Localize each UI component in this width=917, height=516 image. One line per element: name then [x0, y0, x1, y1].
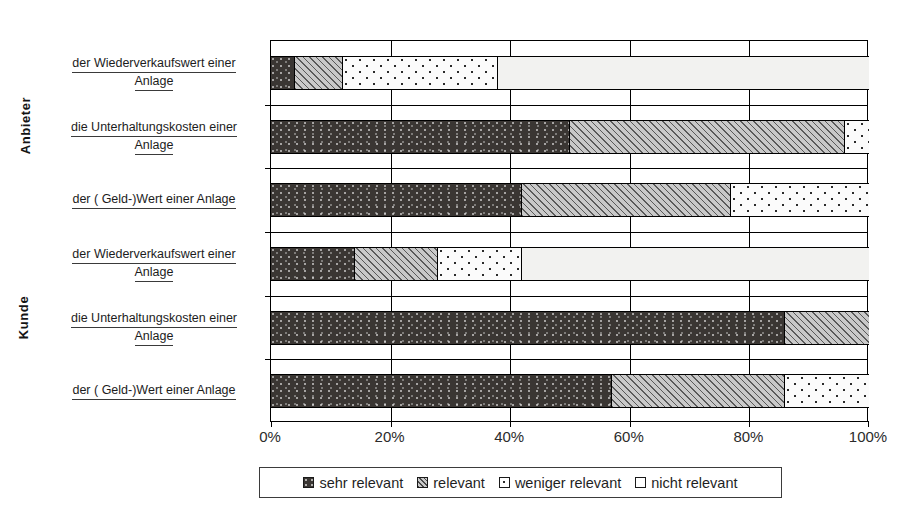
category-label-line: der ( Geld-)Wert einer Anlage — [72, 191, 235, 209]
category-separator-line — [271, 105, 867, 106]
category-label-line: der ( Geld-)Wert einer Anlage — [72, 382, 235, 400]
y-axis-tick — [265, 232, 271, 233]
bar-segment-nicht-relevant — [522, 248, 869, 280]
category-label: der Wiederverkaufswert einerAnlage — [40, 55, 268, 91]
bar-segment-sehr-relevant — [271, 312, 785, 344]
bar-segment-nicht-relevant — [498, 57, 869, 89]
category-label-line: der Wiederverkaufswert einer — [72, 246, 235, 264]
chart-legend: sehr relevantrelevantweniger relevantnic… — [259, 467, 782, 498]
x-axis-tick — [271, 421, 272, 427]
stacked-bar — [271, 183, 869, 217]
y-axis-tick — [265, 359, 271, 360]
category-separator-line — [271, 296, 867, 297]
category-label: der ( Geld-)Wert einer Anlage — [40, 382, 268, 400]
axis-group-label-anbieter: Anbieter — [18, 81, 33, 171]
x-axis-tick-label: 40% — [494, 428, 524, 445]
legend-label: relevant — [433, 475, 485, 491]
x-axis-tick-label: 60% — [614, 428, 644, 445]
x-axis-tick — [630, 421, 631, 427]
category-separator-line — [271, 232, 867, 233]
bar-segment-weniger-relevant — [438, 248, 522, 280]
bar-segment-relevant — [570, 121, 845, 153]
category-label-line: Anlage — [135, 264, 174, 282]
stacked-bar — [271, 311, 869, 345]
legend-label: weniger relevant — [515, 475, 621, 491]
bar-segment-sehr-relevant — [271, 248, 355, 280]
category-label-line: Anlage — [135, 137, 174, 155]
category-label-column: der Wiederverkaufswert einerAnlagedie Un… — [40, 40, 268, 422]
white-dotted-swatch — [499, 477, 510, 488]
category-label-line: Anlage — [135, 73, 174, 91]
bar-segment-relevant — [785, 312, 869, 344]
category-label: der ( Geld-)Wert einer Anlage — [40, 191, 268, 209]
x-axis-tick — [510, 421, 511, 427]
legend-item[interactable]: weniger relevant — [499, 475, 621, 491]
bar-segment-weniger-relevant — [343, 57, 498, 89]
stacked-bar — [271, 374, 869, 408]
x-axis-tick-label: 80% — [733, 428, 763, 445]
vertical-gridline — [391, 41, 392, 421]
legend-label: nicht relevant — [651, 475, 737, 491]
bar-segment-relevant — [522, 184, 731, 216]
category-separator-line — [271, 359, 867, 360]
bar-segment-sehr-relevant — [271, 121, 570, 153]
bar-segment-sehr-relevant — [271, 184, 522, 216]
category-label-line: der Wiederverkaufswert einer — [72, 55, 235, 73]
y-axis-tick — [265, 168, 271, 169]
axis-group-label-kunde: Kunde — [16, 273, 31, 363]
legend-item[interactable]: sehr relevant — [303, 475, 403, 491]
y-axis-tick — [265, 296, 271, 297]
bar-segment-weniger-relevant — [731, 184, 869, 216]
x-axis-tick — [868, 421, 869, 427]
vertical-gridline — [630, 41, 631, 421]
legend-label: sehr relevant — [319, 475, 403, 491]
bar-segment-sehr-relevant — [271, 57, 295, 89]
bar-segment-weniger-relevant — [785, 375, 869, 407]
stacked-bar — [271, 56, 869, 90]
vertical-gridline — [510, 41, 511, 421]
category-separator-line — [271, 168, 867, 169]
category-label: die Unterhaltungskosten einerAnlage — [40, 119, 268, 155]
bar-segment-relevant — [612, 375, 785, 407]
category-label: der Wiederverkaufswert einerAnlage — [40, 246, 268, 282]
category-label-line: die Unterhaltungskosten einer — [71, 119, 237, 137]
legend-item[interactable]: nicht relevant — [635, 475, 737, 491]
dark-dotted-swatch — [303, 477, 314, 488]
bar-segment-sehr-relevant — [271, 375, 612, 407]
x-axis-tick-label: 0% — [259, 428, 281, 445]
category-label: die Unterhaltungskosten einerAnlage — [40, 310, 268, 346]
bar-segment-relevant — [295, 57, 343, 89]
x-axis-tick — [391, 421, 392, 427]
stacked-bar — [271, 120, 869, 154]
x-axis-tick-label: 100% — [849, 428, 887, 445]
category-label-line: Anlage — [135, 328, 174, 346]
stacked-bar — [271, 247, 869, 281]
category-label-line: die Unterhaltungskosten einer — [71, 310, 237, 328]
x-axis-tick-labels: 0%20%40%60%80%100% — [270, 428, 868, 452]
y-axis-tick — [265, 105, 271, 106]
chart-plot-area — [270, 40, 868, 422]
bar-segment-weniger-relevant — [845, 121, 869, 153]
x-axis-tick — [749, 421, 750, 427]
x-axis-tick-label: 20% — [375, 428, 405, 445]
white-plain-swatch — [635, 477, 646, 488]
vertical-gridline — [749, 41, 750, 421]
bar-segment-relevant — [355, 248, 439, 280]
grey-hatched-swatch — [417, 477, 428, 488]
legend-item[interactable]: relevant — [417, 475, 485, 491]
